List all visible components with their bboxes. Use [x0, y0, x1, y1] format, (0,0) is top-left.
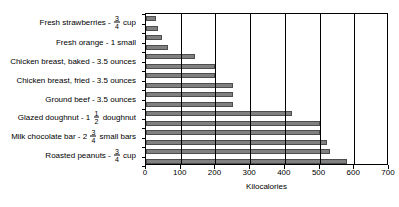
- fraction: 34: [90, 128, 96, 143]
- x-axis-tick-label: 600: [347, 168, 360, 177]
- y-axis-tick: [142, 71, 146, 72]
- fraction-denominator: 2: [94, 116, 100, 124]
- x-axis-tick-label: 500: [312, 168, 325, 177]
- gridline: [250, 14, 251, 164]
- gridline: [285, 14, 286, 164]
- fraction-numerator: 3: [114, 147, 120, 154]
- bar: [146, 149, 330, 154]
- y-axis-tick: [142, 157, 146, 158]
- x-axis-title: Kilocalories: [145, 182, 388, 191]
- category-label-text: Roasted peanuts -: [45, 151, 113, 160]
- bar: [146, 92, 233, 97]
- category-label: Chicken breast, fried - 3.5 ounces: [16, 75, 136, 84]
- category-label: Chicken breast, baked - 3.5 ounces: [10, 56, 136, 65]
- x-axis-tick-label: 100: [173, 168, 186, 177]
- y-axis-tick: [142, 138, 146, 139]
- x-axis-tick-label: 400: [277, 168, 290, 177]
- category-label-suffix: cup: [121, 151, 136, 160]
- bar: [146, 35, 162, 40]
- bar: [146, 26, 158, 31]
- category-label-text: Milk chocolate bar - 2: [11, 132, 89, 141]
- plot-area: [145, 13, 388, 165]
- category-label-text: Fresh strawberries -: [40, 18, 113, 27]
- bar: [146, 83, 233, 88]
- category-label: Fresh orange - 1 small: [56, 37, 136, 46]
- y-axis-tick: [142, 24, 146, 25]
- fraction: 34: [114, 147, 120, 162]
- category-label: Roasted peanuts - 34 cup: [45, 148, 136, 163]
- y-axis-tick: [142, 52, 146, 53]
- y-axis-tick: [142, 90, 146, 91]
- bar: [146, 16, 156, 21]
- fraction: 34: [114, 14, 120, 29]
- bar: [146, 102, 233, 107]
- x-axis-tick-labels: 0100200300400500600700: [0, 168, 399, 180]
- gridline: [354, 14, 355, 164]
- x-axis-tick-label: 300: [242, 168, 255, 177]
- bar: [146, 140, 327, 145]
- y-axis-tick: [142, 81, 146, 82]
- y-axis-tick: [142, 62, 146, 63]
- x-axis-tick-label: 700: [381, 168, 394, 177]
- category-label-text: Chicken breast, fried - 3.5 ounces: [16, 75, 136, 84]
- x-axis-tick-label: 0: [143, 168, 147, 177]
- y-axis-tick: [142, 119, 146, 120]
- gridline: [215, 14, 216, 164]
- fraction-denominator: 4: [114, 154, 120, 162]
- category-label: Milk chocolate bar - 2 34 small bars: [11, 129, 136, 144]
- fraction: 12: [94, 109, 100, 124]
- fraction-numerator: 3: [90, 128, 96, 135]
- bar: [146, 111, 292, 116]
- bar: [146, 45, 168, 50]
- gridline: [320, 14, 321, 164]
- y-axis-tick: [142, 128, 146, 129]
- y-axis-tick: [142, 109, 146, 110]
- category-label-text: Fresh orange - 1 small: [56, 37, 136, 46]
- category-axis-labels: Fresh strawberries - 34 cupFresh orange …: [0, 13, 141, 165]
- kilocalories-bar-chart: Fresh strawberries - 34 cupFresh orange …: [0, 0, 399, 207]
- category-label-text: Ground beef - 3.5 ounces: [45, 94, 136, 103]
- y-axis-tick: [142, 43, 146, 44]
- x-axis-tick-label: 200: [208, 168, 221, 177]
- fraction-denominator: 4: [90, 135, 96, 143]
- category-label-suffix: small bars: [97, 132, 136, 141]
- bar: [146, 121, 320, 126]
- category-label: Ground beef - 3.5 ounces: [45, 94, 136, 103]
- y-axis-tick: [142, 147, 146, 148]
- category-label-text: Glazed doughnut - 1: [18, 113, 93, 122]
- category-label-suffix: cup: [121, 18, 136, 27]
- fraction-numerator: 3: [114, 14, 120, 21]
- category-label-text: Chicken breast, baked - 3.5 ounces: [10, 56, 136, 65]
- category-label: Glazed doughnut - 1 12 doughnut: [18, 110, 136, 125]
- bar: [146, 159, 347, 164]
- gridline: [181, 14, 182, 164]
- bar-series: [146, 14, 387, 164]
- fraction-numerator: 1: [94, 109, 100, 116]
- y-axis-tick: [142, 14, 146, 15]
- category-label: Fresh strawberries - 34 cup: [40, 15, 136, 30]
- fraction-denominator: 4: [114, 21, 120, 29]
- bar: [146, 130, 320, 135]
- bar: [146, 54, 195, 59]
- y-axis-tick: [142, 33, 146, 34]
- y-axis-tick: [142, 100, 146, 101]
- category-label-suffix: doughnut: [100, 113, 136, 122]
